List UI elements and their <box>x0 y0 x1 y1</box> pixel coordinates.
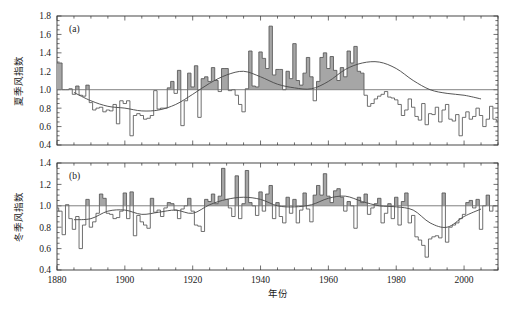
y-tick-label: 1.4 <box>39 48 51 58</box>
series-fill-above-reference <box>55 26 499 136</box>
y-axis-title: 冬季风指数 <box>13 192 24 242</box>
y-tick-label: 1.6 <box>39 30 51 40</box>
panel-label: (a) <box>69 24 80 35</box>
x-tick-label: 1900 <box>115 275 134 285</box>
plot-area <box>55 168 498 257</box>
panel-a: 0.40.60.81.01.21.41.61.8夏季风指数(a) <box>13 11 500 150</box>
y-axis-title: 夏季风指数 <box>13 56 24 106</box>
y-tick-label: 1.0 <box>39 201 51 211</box>
x-axis-title: 年份 <box>268 288 288 299</box>
x-tick-label: 1980 <box>387 275 406 285</box>
x-tick-label: 1920 <box>183 275 202 285</box>
plot-frame <box>57 163 498 270</box>
series-smooth-curve <box>74 196 481 227</box>
y-tick-label: 1.4 <box>39 158 51 168</box>
y-tick-label: 0.4 <box>39 265 51 275</box>
monsoon-index-chart: 0.40.60.81.01.21.41.61.8夏季风指数(a)0.40.60.… <box>0 0 524 314</box>
y-tick-label: 1.8 <box>39 11 51 21</box>
y-tick-label: 0.4 <box>39 140 51 150</box>
panel-b: 0.40.60.81.01.21.41880190019201940196019… <box>13 158 498 299</box>
x-tick-label: 2000 <box>455 275 474 285</box>
y-tick-label: 1.2 <box>39 67 51 77</box>
y-tick-label: 1.0 <box>39 85 51 95</box>
x-tick-label: 1940 <box>251 275 270 285</box>
figure-container: 0.40.60.81.01.21.41.61.8夏季风指数(a)0.40.60.… <box>0 0 524 314</box>
series-step-line <box>55 168 496 257</box>
panel-label: (b) <box>69 171 80 182</box>
y-tick-label: 0.6 <box>39 122 51 132</box>
y-tick-label: 1.2 <box>39 180 51 190</box>
y-tick-label: 0.8 <box>39 223 51 233</box>
x-tick-label: 1880 <box>48 275 67 285</box>
y-tick-label: 0.6 <box>39 244 51 254</box>
y-tick-label: 0.8 <box>39 104 51 114</box>
x-tick-label: 1960 <box>319 275 338 285</box>
plot-area <box>55 26 499 136</box>
